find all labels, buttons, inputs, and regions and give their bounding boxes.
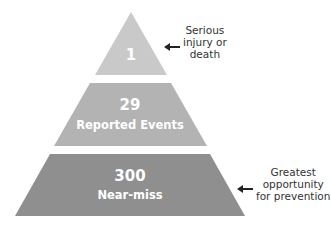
tier-middle-number: 29 [120,98,141,113]
tier-bottom-shape [15,154,245,216]
annotation-bottom: Greatest opportunity for prevention [237,166,330,202]
tier-bottom-number: 300 [114,169,145,184]
annotation-bottom-line-2: opportunity [256,178,330,190]
annotation-top: Serious injury or death [164,24,227,60]
tier-middle-shape [54,83,207,146]
tier-top-number: 1 [126,48,136,63]
annotation-top-line-3: death [183,48,227,60]
annotation-top-line-1: Serious [183,24,227,36]
annotation-top-line-2: injury or [183,36,227,48]
tier-middle-label: Reported Events [76,120,184,132]
pyramid-diagram: 1 29 Reported Events 300 Near-miss Serio… [0,0,331,227]
tier-bottom-label: Near-miss [97,190,162,202]
annotation-bottom-line-1: Greatest [256,166,330,178]
tier-top-shape [95,12,167,75]
annotation-bottom-line-3: for prevention [256,190,330,202]
left-arrow-icon [164,37,180,47]
annotation-top-text: Serious injury or death [183,24,227,60]
annotation-bottom-text: Greatest opportunity for prevention [256,166,330,202]
left-arrow-icon [237,179,253,189]
